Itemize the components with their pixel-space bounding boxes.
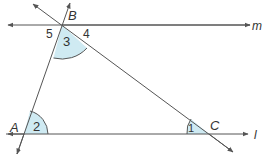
point-a-label: A bbox=[9, 120, 19, 135]
geometry-diagram: B A C m l 3 4 5 2 1 bbox=[0, 0, 265, 164]
line-m-label: m bbox=[252, 19, 262, 33]
line-ab-bottom-arrow bbox=[17, 134, 24, 154]
angle-4-label: 4 bbox=[83, 27, 90, 41]
line-bc bbox=[33, 4, 233, 152]
point-c-label: C bbox=[210, 118, 220, 133]
line-l-label: l bbox=[254, 128, 257, 142]
line-bc-bottom-arrow bbox=[209, 134, 233, 152]
angle-3-label: 3 bbox=[63, 34, 70, 49]
angle-1-label: 1 bbox=[188, 122, 194, 134]
angle-2-label: 2 bbox=[33, 119, 40, 134]
angle-3-shade bbox=[54, 25, 88, 59]
angle-5-label: 5 bbox=[46, 27, 53, 41]
point-b-label: B bbox=[68, 8, 77, 23]
